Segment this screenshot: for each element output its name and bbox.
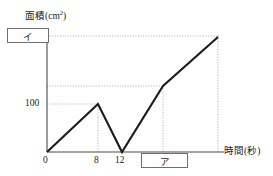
- x-tick-label-8: 8: [94, 155, 99, 165]
- boxed-answer-label-y: イ: [7, 28, 49, 43]
- y-axis-unit-close: ): [63, 11, 66, 21]
- y-axis-title: 面積(cm2): [25, 8, 66, 22]
- y-axis-title-text: 面積: [25, 11, 45, 21]
- graph-figure: 面積(cm2) 時間(秒) 100 0 8 12 イ ア: [0, 0, 273, 176]
- x-tick-label-0: 0: [43, 155, 48, 165]
- y-axis-unit-open: (cm: [45, 11, 60, 21]
- x-axis-title: 時間(秒): [224, 143, 260, 157]
- y-tick-label-100: 100: [25, 98, 39, 108]
- data-line: [47, 37, 218, 152]
- x-tick-label-12: 12: [115, 155, 125, 165]
- boxed-answer-label-x: ア: [141, 153, 188, 168]
